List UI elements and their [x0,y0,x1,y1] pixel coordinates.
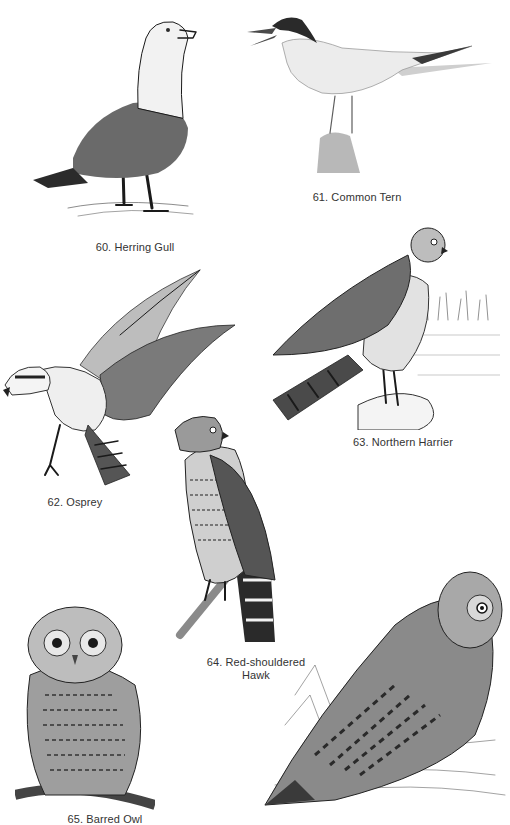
herring-gull-illustration [28,8,198,228]
caption-herring-gull: 60. Herring Gull [60,241,210,254]
short-eared-owl-drawing [255,565,510,815]
caption-northern-harrier: 63. Northern Harrier [328,436,478,449]
caption-barred-owl: 65. Barred Owl [40,813,170,825]
barred-owl-drawing [15,605,155,810]
common-tern-illustration [242,8,492,178]
caption-osprey: 62. Osprey [20,496,130,509]
northern-harrier-drawing [268,225,500,430]
caption-common-tern: 61. Common Tern [282,191,432,204]
herring-gull-drawing [28,8,198,228]
short-eared-owl-illustration [255,565,510,815]
barred-owl-illustration [15,605,155,810]
common-tern-drawing [242,8,492,178]
northern-harrier-illustration [268,225,500,430]
